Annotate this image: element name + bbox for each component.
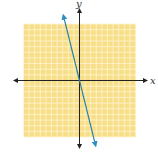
coordinate-plane: x y	[0, 0, 158, 157]
y-axis-label: y	[75, 0, 82, 9]
x-axis-label: x	[150, 75, 156, 86]
